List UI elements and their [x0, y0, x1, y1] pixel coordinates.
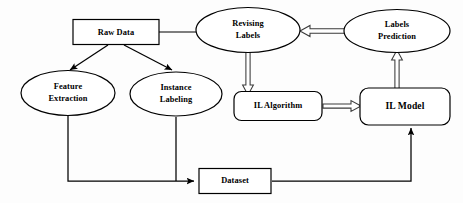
- node-raw-data[interactable]: Raw Data: [73, 20, 159, 45]
- labels-prediction-shape: [344, 10, 450, 53]
- edge-feature-extraction-to-dataset: [68, 116, 194, 181]
- revising-labels-label-line1: Revising: [232, 19, 264, 28]
- raw-data-label: Raw Data: [98, 28, 135, 37]
- node-instance-labeling[interactable]: Instance Labeling: [130, 72, 222, 116]
- edge-labels-prediction-to-revising-labels: [300, 26, 345, 37]
- node-labels-prediction[interactable]: Labels Prediction: [344, 10, 450, 53]
- il-model-label: IL Model: [386, 100, 425, 111]
- node-il-algorithm[interactable]: IL Algorithm: [234, 92, 322, 121]
- edge-il-model-to-labels-prediction: [392, 50, 403, 89]
- revising-labels-label-line2: Labels: [236, 31, 261, 40]
- flowchart-svg: Raw Data Revising Labels Labels Predicti…: [0, 0, 463, 203]
- edge-dataset-to-il-model: [272, 128, 411, 181]
- node-dataset[interactable]: Dataset: [199, 169, 271, 194]
- instance-labeling-shape: [130, 72, 222, 116]
- revising-labels-shape: [196, 8, 300, 53]
- feature-extraction-label-line2: Extraction: [48, 94, 87, 103]
- edge-raw-data-to-instance-labeling: [124, 45, 172, 70]
- labels-prediction-label-line1: Labels: [385, 20, 410, 29]
- instance-labeling-label-line1: Instance: [160, 83, 191, 92]
- diagram-canvas: Raw Data Revising Labels Labels Predicti…: [0, 0, 463, 203]
- node-revising-labels[interactable]: Revising Labels: [196, 8, 300, 53]
- edge-revising-labels-to-il-algorithm: [243, 52, 254, 95]
- edge-raw-data-to-feature-extraction: [70, 45, 108, 70]
- il-algorithm-label: IL Algorithm: [254, 101, 302, 110]
- dataset-label: Dataset: [221, 176, 249, 185]
- edge-il-algorithm-to-il-model: [323, 101, 361, 112]
- labels-prediction-label-line2: Prediction: [378, 32, 416, 41]
- node-feature-extraction[interactable]: Feature Extraction: [21, 71, 115, 116]
- node-il-model[interactable]: IL Model: [360, 88, 450, 125]
- instance-labeling-label-line2: Labeling: [160, 95, 193, 104]
- feature-extraction-shape: [21, 71, 115, 116]
- feature-extraction-label-line1: Feature: [54, 82, 83, 91]
